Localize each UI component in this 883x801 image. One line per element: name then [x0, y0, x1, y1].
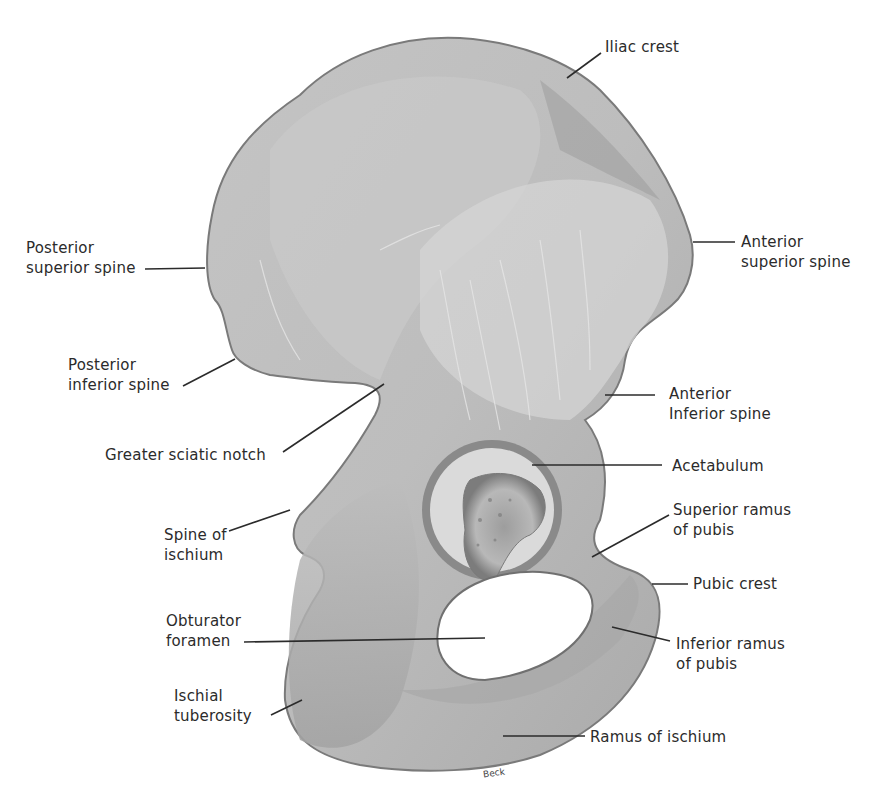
label-posterior-inferior-spine: Posterior inferior spine — [68, 355, 170, 395]
label-text: tuberosity — [174, 706, 252, 726]
label-text: Ischial — [174, 686, 252, 706]
label-text: Posterior — [68, 355, 170, 375]
label-text: Acetabulum — [672, 457, 764, 475]
label-text: superior spine — [741, 252, 851, 272]
label-iliac-crest: Iliac crest — [605, 37, 679, 57]
label-anterior-inferior-spine: Anterior Inferior spine — [669, 384, 771, 424]
hip-bone-diagram: Iliac crest Posterior superior spine Ant… — [0, 0, 883, 801]
label-text: ischium — [164, 545, 227, 565]
label-text: Inferior spine — [669, 404, 771, 424]
label-text: superior spine — [26, 258, 136, 278]
label-text: Superior ramus — [673, 500, 791, 520]
label-obturator-foramen: Obturator foramen — [166, 611, 241, 651]
label-greater-sciatic-notch: Greater sciatic notch — [105, 445, 266, 465]
label-acetabulum: Acetabulum — [672, 456, 764, 476]
label-anterior-superior-spine: Anterior superior spine — [741, 232, 851, 272]
label-spine-of-ischium: Spine of ischium — [164, 525, 227, 565]
label-text: Greater sciatic notch — [105, 446, 266, 464]
label-text: of pubis — [676, 654, 785, 674]
label-superior-ramus-of-pubis: Superior ramus of pubis — [673, 500, 791, 540]
label-text: Iliac crest — [605, 38, 679, 56]
label-ramus-of-ischium: Ramus of ischium — [590, 727, 726, 747]
label-inferior-ramus-of-pubis: Inferior ramus of pubis — [676, 634, 785, 674]
label-text: Inferior ramus — [676, 634, 785, 654]
label-text: Anterior — [741, 232, 851, 252]
label-text: Anterior — [669, 384, 771, 404]
label-text: inferior spine — [68, 375, 170, 395]
label-text: Obturator — [166, 611, 241, 631]
label-text: foramen — [166, 631, 241, 651]
label-text: of pubis — [673, 520, 791, 540]
label-ischial-tuberosity: Ischial tuberosity — [174, 686, 252, 726]
label-text: Pubic crest — [693, 575, 777, 593]
label-posterior-superior-spine: Posterior superior spine — [26, 238, 136, 278]
label-text: Ramus of ischium — [590, 728, 726, 746]
label-text: Posterior — [26, 238, 136, 258]
label-pubic-crest: Pubic crest — [693, 574, 777, 594]
label-text: Spine of — [164, 525, 227, 545]
